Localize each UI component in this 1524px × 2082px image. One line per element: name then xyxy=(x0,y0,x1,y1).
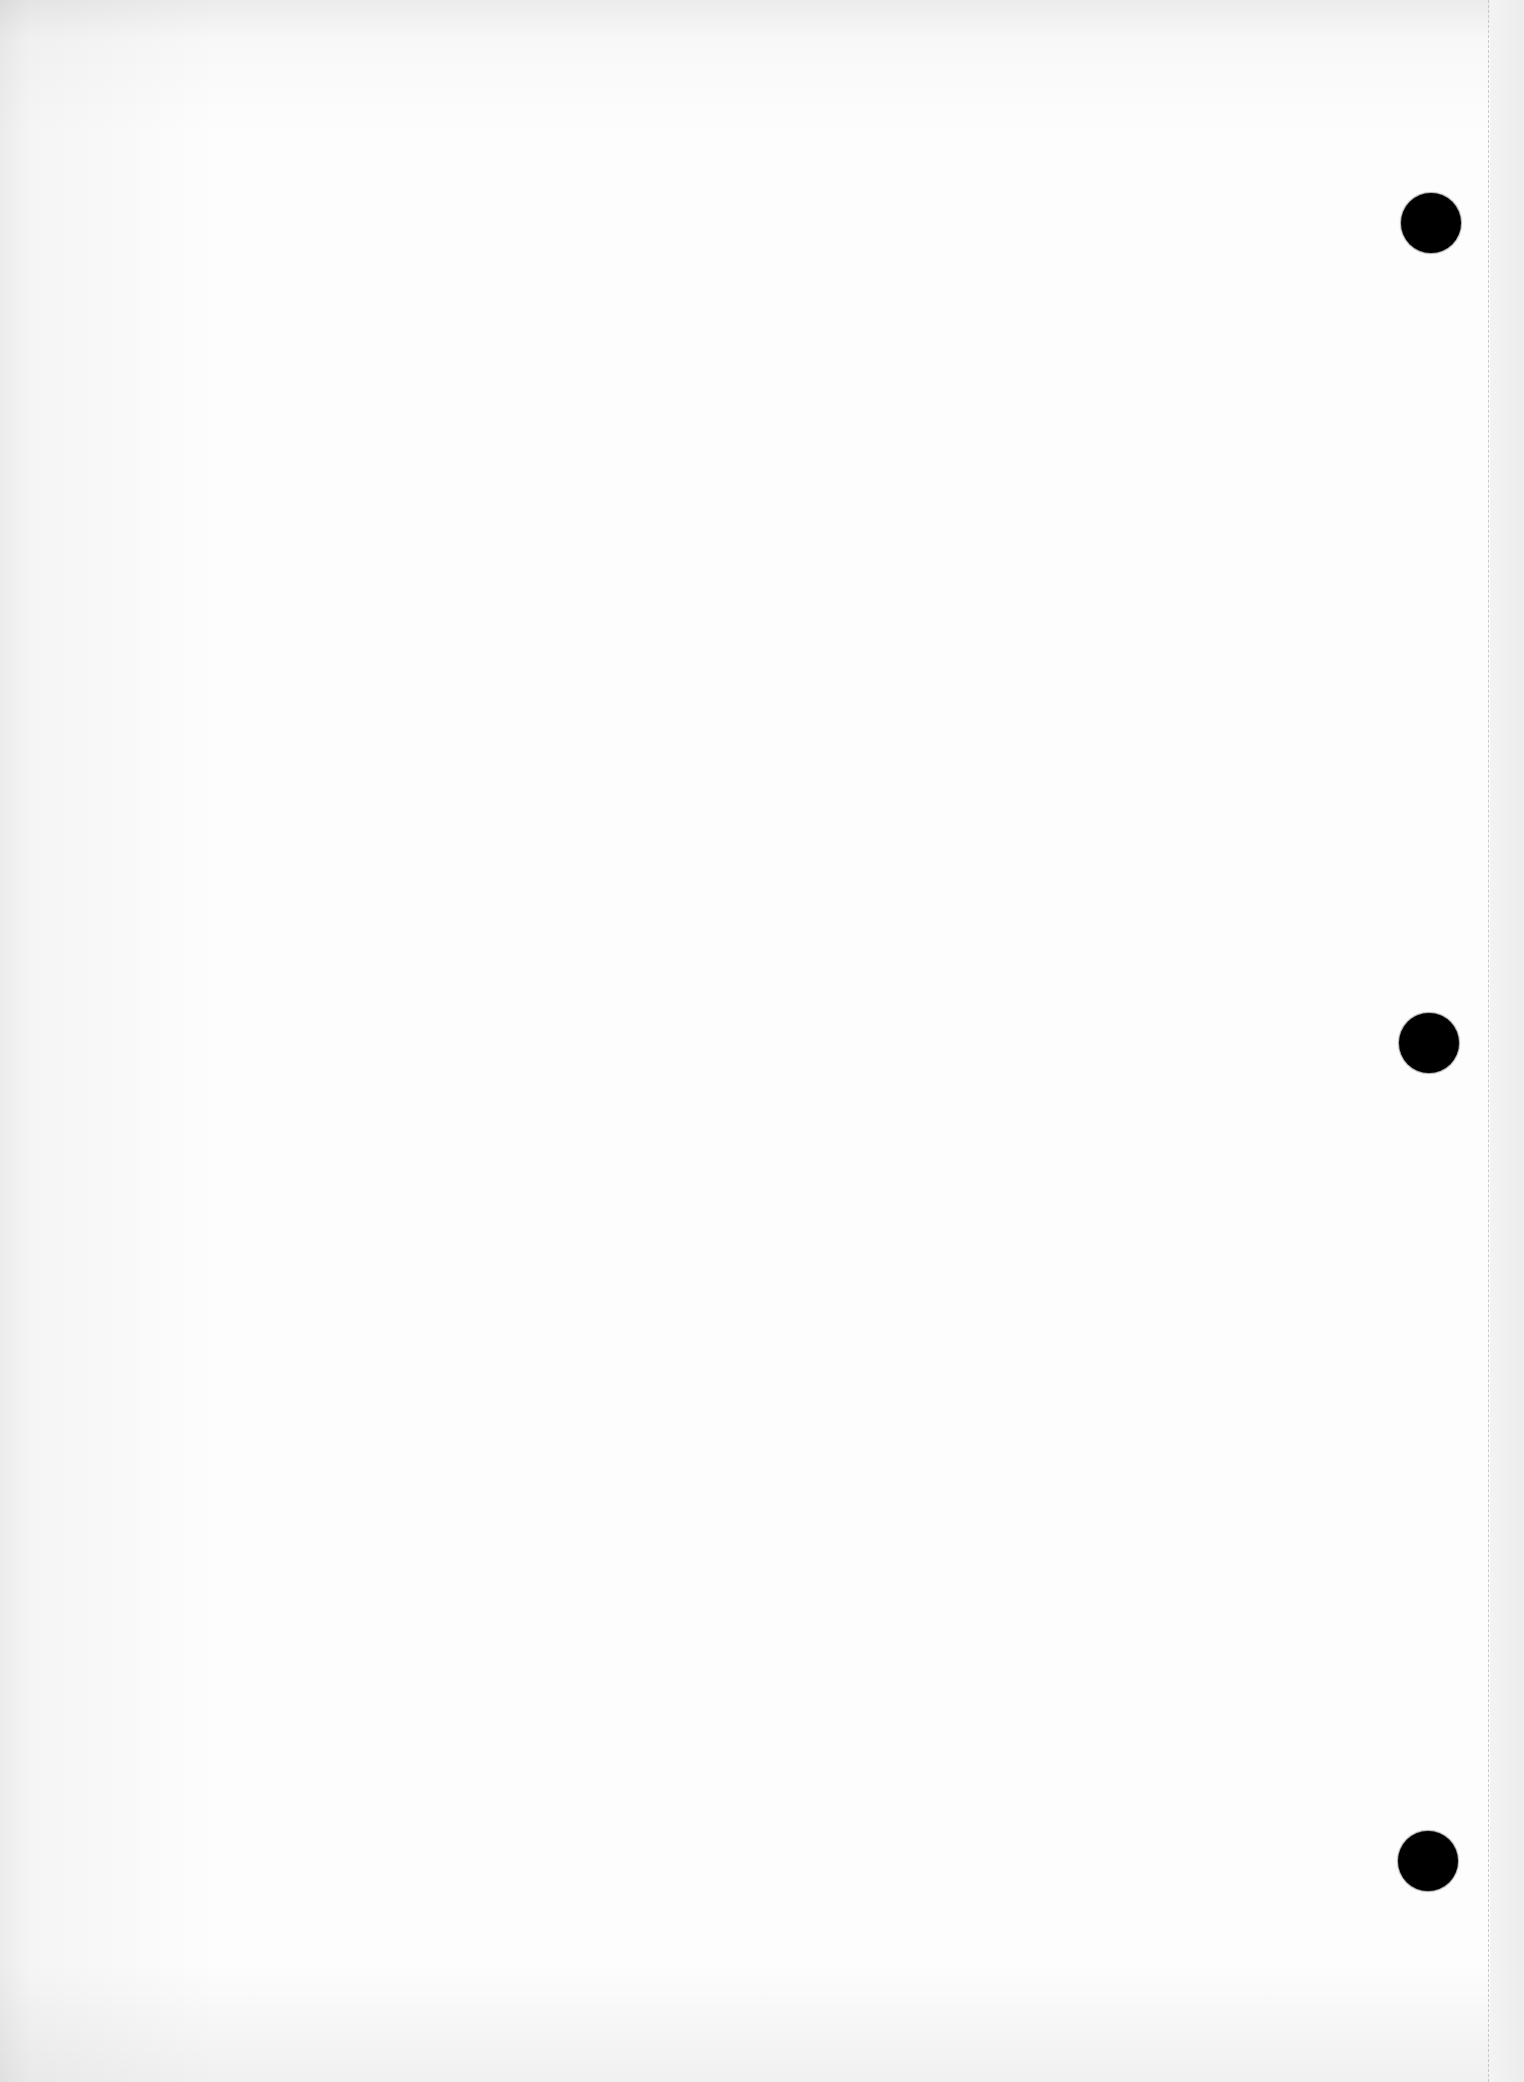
scanned-page xyxy=(0,0,1524,2082)
binder-punch-hole-middle xyxy=(1399,1013,1459,1073)
binder-punch-hole-top xyxy=(1401,193,1461,253)
page-right-margin-strip xyxy=(1490,0,1524,2082)
page-content-area xyxy=(0,0,1390,2082)
perforation-edge-line xyxy=(1488,0,1489,2082)
binder-punch-hole-bottom xyxy=(1398,1831,1458,1891)
